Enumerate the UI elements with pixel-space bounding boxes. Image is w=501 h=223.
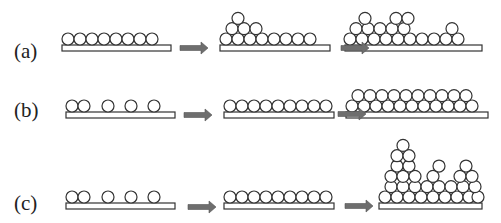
- substrate: [66, 112, 175, 118]
- particle: [460, 160, 472, 172]
- particle: [102, 100, 114, 112]
- particle: [284, 191, 296, 203]
- particle: [445, 181, 457, 193]
- diagram-canvas: [0, 0, 501, 223]
- particle: [125, 100, 137, 112]
- panel-b-2: [224, 100, 334, 118]
- substrate: [346, 112, 488, 118]
- particle: [280, 33, 292, 45]
- substrate: [220, 45, 330, 51]
- particle: [224, 100, 236, 112]
- particle: [388, 90, 400, 102]
- panel-b-1: [66, 100, 175, 118]
- particle: [250, 23, 262, 35]
- particle: [424, 90, 436, 102]
- particle: [62, 33, 74, 45]
- particle: [66, 100, 78, 112]
- particle: [236, 100, 248, 112]
- particle: [260, 191, 272, 203]
- particle: [78, 191, 90, 203]
- particle: [248, 191, 260, 203]
- panel-a-2: [220, 12, 330, 51]
- particle: [390, 12, 402, 24]
- particle: [320, 100, 332, 112]
- particle: [134, 33, 146, 45]
- particle: [148, 100, 160, 112]
- particle: [374, 23, 386, 35]
- panel-c-3: [379, 139, 484, 209]
- particle: [436, 90, 448, 102]
- particle: [376, 90, 388, 102]
- panel-b-3: [346, 90, 488, 118]
- particle: [412, 90, 424, 102]
- substrate: [224, 203, 334, 209]
- panel-a-1: [62, 33, 171, 51]
- particle: [460, 90, 472, 102]
- particle: [352, 90, 364, 102]
- right-arrow-icon: [188, 201, 216, 213]
- particle: [224, 191, 236, 203]
- particle: [260, 100, 272, 112]
- particle: [296, 191, 308, 203]
- particle: [232, 12, 244, 24]
- particle: [397, 139, 409, 151]
- particle: [146, 33, 158, 45]
- particle: [102, 191, 114, 203]
- right-arrow-icon: [180, 42, 208, 54]
- nucleation-growth-diagram: (a) (b) (c): [0, 0, 501, 223]
- particle: [292, 33, 304, 45]
- particle: [125, 191, 137, 203]
- particle: [359, 12, 371, 24]
- particle: [268, 33, 280, 45]
- particle: [272, 100, 284, 112]
- particle: [304, 33, 316, 45]
- particle: [272, 191, 284, 203]
- particle: [236, 191, 248, 203]
- right-arrow-icon: [184, 109, 212, 121]
- particle: [122, 33, 134, 45]
- particle: [308, 100, 320, 112]
- particle: [364, 90, 376, 102]
- panel-c-2: [224, 191, 334, 209]
- particle: [433, 160, 445, 172]
- particle: [402, 12, 414, 24]
- substrate: [224, 112, 334, 118]
- right-arrow-icon: [345, 200, 373, 212]
- panel-c-1: [66, 191, 175, 209]
- particle: [400, 90, 412, 102]
- particle: [448, 90, 460, 102]
- particle: [66, 191, 78, 203]
- particle: [74, 33, 86, 45]
- particle: [446, 23, 458, 35]
- particle: [86, 33, 98, 45]
- particle: [308, 191, 320, 203]
- particle: [248, 100, 260, 112]
- particle: [284, 100, 296, 112]
- substrate: [66, 203, 175, 209]
- particle: [148, 191, 160, 203]
- particle: [78, 100, 90, 112]
- substrate: [62, 45, 171, 51]
- substrate: [379, 203, 482, 209]
- particle: [428, 33, 440, 45]
- particle: [296, 100, 308, 112]
- particle: [416, 33, 428, 45]
- particle: [98, 33, 110, 45]
- particle: [320, 191, 332, 203]
- particle: [350, 23, 362, 35]
- particle: [110, 33, 122, 45]
